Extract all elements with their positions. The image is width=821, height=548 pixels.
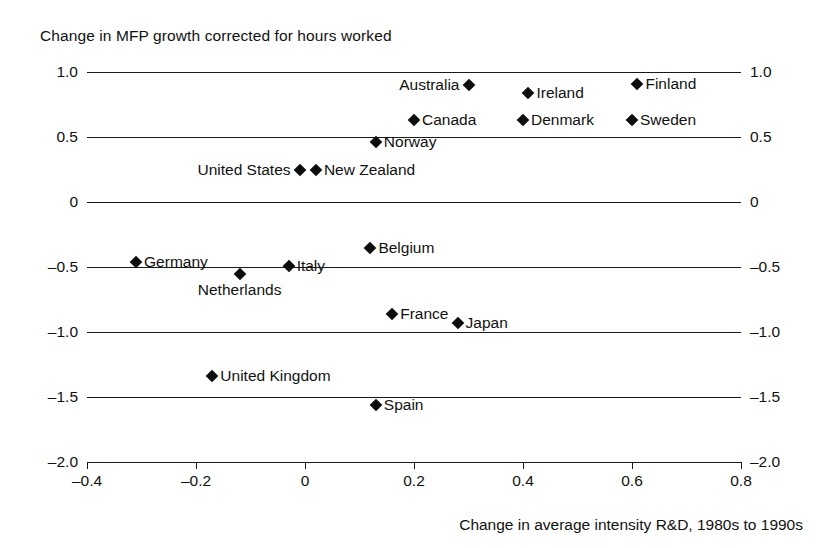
data-point-label: United Kingdom	[220, 368, 330, 384]
data-point-marker[interactable]	[293, 163, 306, 176]
y-tick-label-right: –0.5	[750, 259, 810, 275]
y-tick-label-right: –1.5	[750, 389, 810, 405]
data-point-label: Spain	[384, 397, 424, 413]
data-point-label: Italy	[297, 258, 325, 274]
gridline	[87, 202, 741, 203]
data-point-marker[interactable]	[282, 259, 295, 272]
data-point-marker[interactable]	[462, 79, 475, 92]
data-point-marker[interactable]	[206, 370, 219, 383]
data-point-marker[interactable]	[369, 398, 382, 411]
data-point-label: Netherlands	[198, 282, 282, 298]
y-tick-label-right: 0	[750, 194, 810, 210]
data-point-marker[interactable]	[233, 267, 246, 280]
y-tick-label-right: –2.0	[750, 454, 810, 470]
y-tick-label-right: 0.5	[750, 129, 810, 145]
x-tick-label: –0.2	[181, 472, 211, 490]
data-point-label: Norway	[384, 134, 437, 150]
data-point-label: Denmark	[531, 112, 594, 128]
x-tick-label: 0	[301, 472, 310, 490]
y-tick-label-left: 0	[18, 194, 78, 210]
data-point-marker[interactable]	[451, 317, 464, 330]
data-point-label: Canada	[422, 112, 476, 128]
data-point-label: Ireland	[536, 85, 583, 101]
y-tick-label-right: 1.0	[750, 64, 810, 80]
y-tick-label-left: 1.0	[18, 64, 78, 80]
x-tick-mark	[741, 462, 742, 469]
y-tick-label-left: 0.5	[18, 129, 78, 145]
gridline	[87, 332, 741, 333]
data-point-label: Germany	[144, 254, 208, 270]
x-tick-mark	[196, 462, 197, 469]
data-point-marker[interactable]	[364, 241, 377, 254]
x-axis-title: Change in average intensity R&D, 1980s t…	[459, 516, 803, 534]
x-tick-label: 0.8	[730, 472, 752, 490]
x-tick-mark	[87, 462, 88, 469]
x-tick-mark	[632, 462, 633, 469]
chart-title: Change in MFP growth corrected for hours…	[40, 27, 392, 45]
data-point-marker[interactable]	[386, 307, 399, 320]
data-point-marker[interactable]	[310, 163, 323, 176]
x-tick-label: 0.6	[621, 472, 643, 490]
data-point-label: United States	[197, 162, 290, 178]
data-point-label: Australia	[399, 77, 459, 93]
y-tick-label-right: –1.0	[750, 324, 810, 340]
x-tick-mark	[305, 462, 306, 469]
scatter-chart: Change in MFP growth corrected for hours…	[0, 0, 821, 548]
x-tick-mark	[414, 462, 415, 469]
data-point-marker[interactable]	[522, 86, 535, 99]
data-point-marker[interactable]	[626, 114, 639, 127]
y-tick-label-left: –2.0	[18, 454, 78, 470]
data-point-label: New Zealand	[324, 162, 415, 178]
data-point-label: Japan	[466, 315, 508, 331]
data-point-label: Belgium	[378, 240, 434, 256]
x-tick-label: 0.2	[403, 472, 425, 490]
x-tick-label: –0.4	[72, 472, 102, 490]
data-point-marker[interactable]	[408, 114, 421, 127]
y-tick-label-left: –1.5	[18, 389, 78, 405]
data-point-marker[interactable]	[517, 114, 530, 127]
data-point-label: Sweden	[640, 112, 696, 128]
gridline	[87, 72, 741, 73]
y-tick-label-left: –1.0	[18, 324, 78, 340]
x-tick-mark	[523, 462, 524, 469]
data-point-marker[interactable]	[631, 77, 644, 90]
x-tick-label: 0.4	[512, 472, 534, 490]
data-point-label: France	[400, 306, 448, 322]
y-tick-label-left: –0.5	[18, 259, 78, 275]
data-point-label: Finland	[645, 76, 696, 92]
